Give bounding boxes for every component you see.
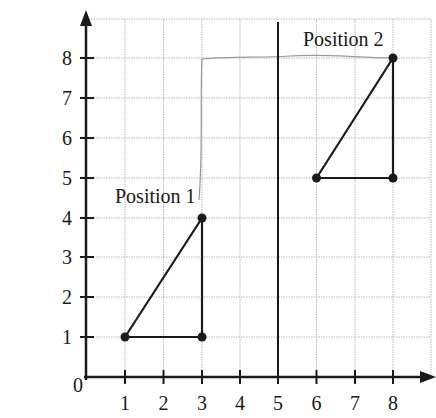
- svg-text:2: 2: [159, 392, 169, 414]
- svg-text:6: 6: [62, 127, 72, 149]
- position-1-label: Position 1: [115, 185, 196, 207]
- svg-text:7: 7: [62, 87, 72, 109]
- x-axis-arrow-icon: [420, 371, 436, 383]
- svg-text:8: 8: [388, 392, 398, 414]
- y-axis-arrow-icon: [80, 10, 92, 26]
- svg-text:3: 3: [197, 392, 207, 414]
- position-2-label: Position 2: [303, 28, 384, 50]
- svg-text:5: 5: [62, 167, 72, 189]
- svg-text:8: 8: [62, 47, 72, 69]
- svg-text:5: 5: [273, 392, 283, 414]
- svg-text:7: 7: [350, 392, 360, 414]
- x-tick-labels: 1 2 3 4 5 6 7 8: [120, 392, 398, 414]
- y-tick-labels: 8 7 6 5 4 3 2 1: [62, 47, 72, 348]
- svg-text:1: 1: [62, 326, 72, 348]
- coordinate-grid-diagram: 8 7 6 5 4 3 2 1 0 1 2 3 4 5 6 7 8 Positi…: [0, 0, 436, 418]
- svg-text:4: 4: [235, 392, 245, 414]
- svg-text:3: 3: [62, 246, 72, 268]
- svg-text:1: 1: [120, 392, 130, 414]
- origin-label: 0: [73, 374, 83, 396]
- svg-text:2: 2: [62, 286, 72, 308]
- svg-text:4: 4: [62, 207, 72, 229]
- svg-text:6: 6: [312, 392, 322, 414]
